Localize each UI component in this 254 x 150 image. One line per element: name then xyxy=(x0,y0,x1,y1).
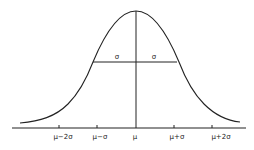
sigma-label-left: σ xyxy=(115,53,120,61)
sigma-label-right: σ xyxy=(152,53,157,61)
tick-label: μ+2σ xyxy=(211,133,231,141)
tick-label: μ−2σ xyxy=(53,133,73,141)
normal-distribution-diagram: σ σ μ−2σ μ−σ μ μ+σ μ+2σ xyxy=(0,0,254,150)
tick-label: μ xyxy=(133,133,138,141)
bell-curve xyxy=(20,11,240,123)
tick-label: μ+σ xyxy=(170,133,185,141)
tick-label: μ−σ xyxy=(93,133,108,141)
